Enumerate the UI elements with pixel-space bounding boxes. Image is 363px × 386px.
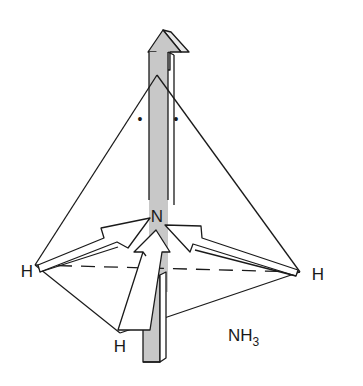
- atom-label-n: N: [151, 207, 163, 226]
- lone-pair-dot-left: •: [138, 111, 143, 127]
- atom-label-h-right: H: [312, 265, 324, 284]
- molecule-label-main: NH: [228, 326, 253, 345]
- molecule-label-subscript: 3: [253, 335, 260, 349]
- bond-dipole-left: [38, 218, 150, 272]
- atom-label-h-front: H: [114, 337, 126, 356]
- nh3-dipole-diagram: • • N H H H NH3: [0, 0, 363, 386]
- atom-label-h-left: H: [21, 262, 33, 281]
- molecule-label: NH3: [228, 326, 260, 349]
- lone-pair-dot-right: •: [174, 111, 179, 127]
